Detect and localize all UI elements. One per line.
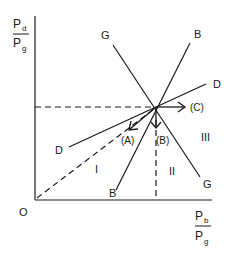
svg-text:b: b (204, 216, 209, 225)
region-II-label: II (169, 165, 175, 177)
svg-text:g: g (22, 44, 26, 53)
line-B (116, 43, 190, 190)
svg-text:P: P (195, 209, 203, 223)
line-D-label-top: D (213, 78, 221, 90)
svg-text:P: P (13, 17, 21, 31)
line-B-label-top: B (194, 28, 201, 40)
svg-text:P: P (13, 36, 21, 50)
region-III-label: III (201, 131, 210, 143)
svg-text:d: d (22, 24, 26, 33)
arrow-C-label: (C) (190, 102, 204, 113)
line-D-label-bottom: D (55, 144, 63, 156)
price-ratio-diagram: P d P g P b P g O G G B B D D (A) (B) (C… (0, 0, 228, 256)
line-D (69, 84, 206, 147)
region-I-label: I (95, 163, 98, 175)
svg-text:P: P (195, 229, 203, 243)
x-axis-label: P b P g (195, 209, 211, 246)
arrow-A-label: (A) (121, 135, 134, 146)
svg-text:g: g (204, 237, 208, 246)
line-B-label-bottom: B (109, 187, 116, 199)
line-G-label-bottom: G (203, 178, 212, 190)
arrow-C (156, 102, 185, 112)
origin-label: O (19, 206, 28, 218)
line-G-label-top: G (101, 29, 110, 41)
arrow-B-label: (B) (156, 135, 169, 146)
y-axis-label: P d P g (13, 17, 29, 53)
